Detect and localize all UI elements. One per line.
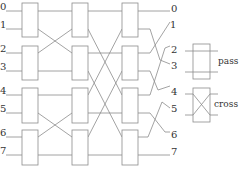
legend-pass: pass: [185, 44, 239, 79]
switch-box: [22, 46, 38, 80]
stage-1-switches: [22, 3, 38, 165]
stage2-to-stage3-wires: [88, 11, 122, 155]
input-label: 5: [0, 103, 6, 114]
input-label: 6: [0, 127, 6, 138]
output-label: 4: [171, 86, 177, 97]
switch-box: [72, 46, 88, 80]
switch-box: [22, 130, 38, 165]
input-label: 1: [0, 19, 6, 30]
legend-cross: cross: [185, 88, 238, 122]
stage-2-switches: [72, 3, 88, 165]
input-label: 2: [0, 43, 6, 54]
output-wires: [138, 11, 170, 155]
legend-cross-label: cross: [214, 99, 238, 109]
output-label: 6: [171, 129, 177, 140]
input-labels: 0 1 2 3 4 5 6 7: [0, 1, 6, 156]
switch-box: [22, 88, 38, 123]
output-label: 5: [171, 103, 177, 114]
switch-box: [122, 3, 138, 37]
switch-box: [22, 3, 38, 37]
stage1-to-stage2-wires: [38, 11, 72, 155]
switch-box: [72, 130, 88, 165]
output-label: 7: [171, 146, 177, 157]
switch-box: [122, 46, 138, 80]
input-wires: [6, 11, 22, 155]
input-label: 7: [0, 145, 6, 156]
output-label: 2: [171, 44, 177, 55]
output-label: 0: [171, 3, 177, 14]
pass-switch-box: [193, 44, 210, 79]
output-labels: 0 1 2 3 4 5 6 7: [170, 3, 177, 157]
switch-box: [122, 88, 138, 123]
switch-network-diagram: 0 1 2 3 4 5 6 7 0 1 2 3 4 5 6 7 pass cro…: [0, 0, 240, 169]
switch-box: [122, 130, 138, 165]
output-label: 1: [170, 19, 176, 30]
switch-box: [72, 88, 88, 123]
switch-box: [72, 3, 88, 37]
output-label: 3: [171, 60, 177, 71]
stage-3-switches: [122, 3, 138, 165]
legend-pass-label: pass: [218, 56, 239, 66]
input-label: 0: [0, 1, 6, 12]
input-label: 4: [0, 85, 6, 96]
input-label: 3: [0, 61, 6, 72]
